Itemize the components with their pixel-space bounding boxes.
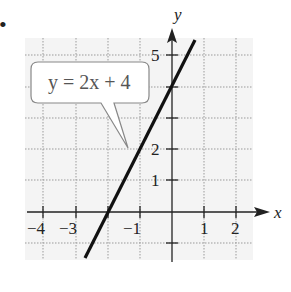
y-tick-5: 5: [151, 46, 160, 65]
bullet: •: [0, 12, 7, 37]
y-tick-2: 2: [151, 140, 160, 159]
y-axis-label: y: [172, 5, 182, 24]
x-axis-label: x: [273, 203, 282, 222]
x-tick-2: 2: [231, 219, 240, 238]
x-tick-m3: −3: [59, 219, 77, 238]
y-tick-1: 1: [151, 171, 160, 190]
x-tick-m4: −4: [27, 219, 46, 238]
x-tick-m1: −1: [123, 219, 141, 238]
graph: y = 2x + 4 y x 5 2 1 −4 −3 −1 1 2 •: [0, 0, 291, 292]
x-tick-1: 1: [200, 219, 209, 238]
callout-text: y = 2x + 4: [48, 71, 131, 94]
